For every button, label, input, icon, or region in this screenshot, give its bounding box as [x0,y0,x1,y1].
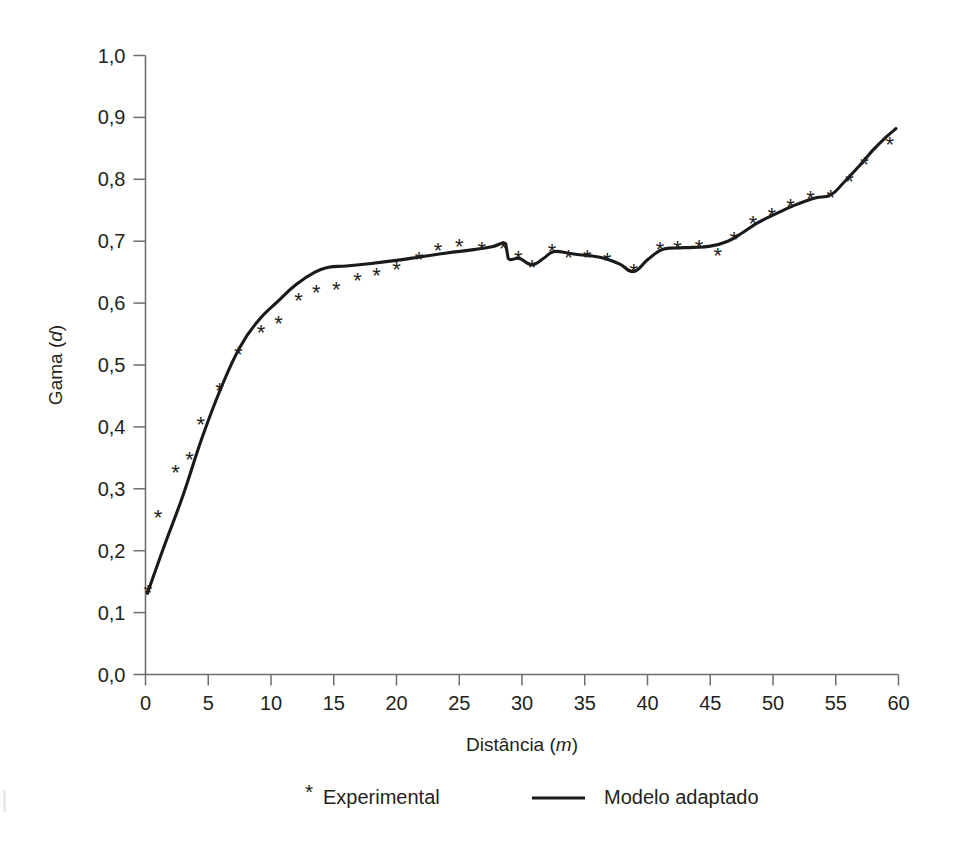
x-axis-title: Distância (m) [466,734,578,755]
x-tick-label-35: 35 [574,692,596,714]
experimental-point: * [749,211,758,236]
x-axis-title-paren: ) [572,734,578,755]
experimental-point: * [171,460,180,485]
x-tick-label-0: 0 [140,692,151,714]
experimental-point: * [294,288,303,313]
experimental-point: * [673,236,682,261]
y-tick-label-1,0: 1,0 [98,45,126,67]
legend-model-label: Modelo adaptado [604,786,759,808]
x-tick-label-40: 40 [636,692,658,714]
experimental-point: * [154,505,163,530]
experimental-point: * [730,227,739,252]
experimental-point: * [185,447,194,472]
x-tick-label-25: 25 [448,692,470,714]
experimental-point: * [215,378,224,403]
y-tick-label-0,5: 0,5 [98,354,126,376]
y-tick-label-0,2: 0,2 [98,540,126,562]
model-adaptado-line [147,129,896,594]
y-tick-label-0,9: 0,9 [98,106,126,128]
experimental-point: * [514,246,523,271]
experimental-point: * [196,412,205,437]
y-axis-title-paren: ) [45,325,66,331]
experimental-point: * [434,238,443,263]
experimental-point: * [144,580,153,605]
experimental-point: * [372,263,381,288]
y-tick-label-0,7: 0,7 [98,230,126,252]
model-line-series [147,129,896,594]
experimental-point: * [257,320,266,345]
experimental-point: * [695,235,704,260]
y-axis-ticks: 0,00,10,20,30,40,50,60,70,80,91,0 [98,45,146,686]
experimental-point: * [564,245,573,270]
experimental-markers-series: **************************************** [144,132,895,605]
y-tick-label-0,3: 0,3 [98,478,126,500]
legend-experimental-marker-icon: * [305,780,313,803]
experimental-point: * [860,152,869,177]
experimental-point: * [499,236,508,261]
experimental-point: * [415,247,424,272]
x-tick-label-10: 10 [260,692,282,714]
x-axis-title-text: Distância ( [466,734,556,755]
experimental-point: * [528,255,537,280]
gamma-distance-chart: 051015202530354045505560 0,00,10,20,30,4… [0,0,953,844]
y-tick-label-0,0: 0,0 [98,664,126,686]
experimental-point: * [845,169,854,194]
experimental-point: * [392,257,401,282]
experimental-point: * [234,342,243,367]
x-tick-label-60: 60 [887,692,909,714]
y-axis-title-text: Gama ( [45,341,66,405]
x-axis-title-unit: m [556,734,572,755]
experimental-point: * [312,280,321,305]
figure-container: 051015202530354045505560 0,00,10,20,30,4… [0,0,953,844]
axes [146,56,899,675]
experimental-point: * [767,203,776,228]
chart-legend: *ExperimentalModelo adaptado [305,780,759,808]
experimental-point: * [806,186,815,211]
experimental-point: * [274,311,283,336]
experimental-point: * [455,234,464,259]
y-tick-label-0,8: 0,8 [98,168,126,190]
x-tick-label-20: 20 [385,692,407,714]
y-axis-title: Gama (d) [45,325,66,405]
experimental-point: * [478,237,487,262]
x-tick-label-30: 30 [511,692,533,714]
experimental-point: * [548,239,557,264]
experimental-point: * [603,248,612,273]
experimental-point: * [583,245,592,270]
x-tick-label-5: 5 [203,692,214,714]
experimental-point: * [713,243,722,268]
experimental-point: * [826,185,835,210]
x-tick-label-45: 45 [699,692,721,714]
experimental-point: * [353,268,362,293]
experimental-point: * [332,277,341,302]
scan-edge-artifact [3,790,6,812]
legend-experimental-label: Experimental [323,786,440,808]
experimental-point: * [786,194,795,219]
experimental-point: * [656,237,665,262]
x-tick-label-50: 50 [762,692,784,714]
y-tick-label-0,1: 0,1 [98,602,126,624]
y-tick-label-0,6: 0,6 [98,292,126,314]
experimental-point: * [629,259,638,284]
x-axis-ticks: 051015202530354045505560 [140,675,910,714]
experimental-point: * [885,132,894,157]
x-tick-label-15: 15 [323,692,345,714]
y-tick-label-0,4: 0,4 [98,416,126,438]
x-tick-label-55: 55 [825,692,847,714]
